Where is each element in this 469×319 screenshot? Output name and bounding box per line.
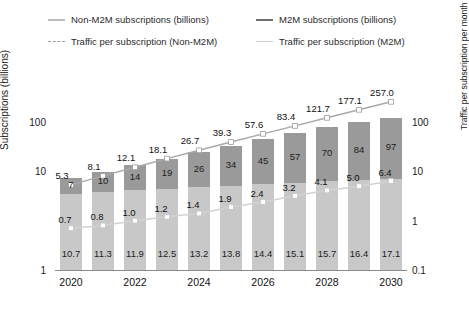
y-axis-right-title: Traffic per subscription per month (GB) xyxy=(459,0,469,130)
legend-label: Non-M2M subscriptions (billions) xyxy=(71,14,209,25)
legend-label: M2M subscriptions (billions) xyxy=(279,14,396,25)
y-tick-right-1: 1 xyxy=(412,216,442,227)
x-tick-label: 2026 xyxy=(243,276,283,288)
y-tick-left-1: 1 xyxy=(20,265,46,276)
bar-label-m2m-subs: 97 xyxy=(371,141,411,152)
x-tick-label: 2022 xyxy=(115,276,155,288)
legend-swatch-line-icon xyxy=(256,41,273,42)
legend-item-m2m-subscriptions: M2M subscriptions (billions) xyxy=(256,14,396,25)
legend-item-traffic-m2m: Traffic per subscription (M2M) xyxy=(256,36,405,47)
legend-swatch-line-icon xyxy=(256,19,273,21)
y-tick-right-0-1: 0.1 xyxy=(412,265,442,276)
x-tick-label: 2020 xyxy=(51,276,91,288)
legend-item-nonm2m-subscriptions: Non-M2M subscriptions (billions) xyxy=(48,14,209,25)
legend-item-traffic-nonm2m: Traffic per subscription (Non-M2M) xyxy=(48,36,217,47)
y-axis-left-title: Subscriptions (billions) xyxy=(0,30,10,150)
bar-label-nonm2m-subs: 17.1 xyxy=(371,248,411,259)
y-tick-left-100: 100 xyxy=(20,117,46,128)
legend-swatch-line-icon xyxy=(48,19,65,21)
legend-label: Traffic per subscription (M2M) xyxy=(279,36,405,47)
y-tick-right-100: 100 xyxy=(412,117,442,128)
legend-label: Traffic per subscription (Non-M2M) xyxy=(71,36,217,47)
x-tick-label: 2028 xyxy=(307,276,347,288)
legend-swatch-dashed-line-icon xyxy=(48,41,65,42)
x-tick-label: 2024 xyxy=(179,276,219,288)
line-label-traffic-nonm2m: 257.0 xyxy=(362,87,402,98)
x-axis-line xyxy=(55,270,407,271)
y-tick-right-10: 10 xyxy=(412,166,442,177)
line-label-traffic-m2m: 6.4 xyxy=(365,167,405,178)
chart-legend: Non-M2M subscriptions (billions) M2M sub… xyxy=(0,14,466,56)
x-tick-label: 2030 xyxy=(371,276,411,288)
